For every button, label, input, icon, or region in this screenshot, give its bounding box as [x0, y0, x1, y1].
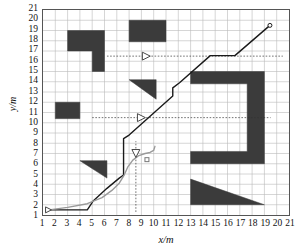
x-tick-label-13: 13	[186, 219, 196, 229]
y-axis-tick-labels: 123456789101112131415161718192021	[16, 9, 38, 216]
y-tick-label-10: 10	[29, 118, 39, 128]
y-tick-label-15: 15	[29, 66, 39, 76]
figure-root: 123456789101112131415161718192021 123456…	[0, 0, 304, 251]
x-tick-label-10: 10	[149, 219, 159, 229]
y-tick-label-6: 6	[33, 160, 38, 170]
obstacle-triangle-left	[80, 161, 107, 178]
obstacle-L-shape	[68, 31, 105, 72]
y-tick-label-13: 13	[29, 87, 39, 97]
x-axis-tick-labels: 123456789101112131415161718192021	[42, 219, 290, 233]
y-tick-label-2: 2	[33, 201, 38, 211]
y-tick-label-11: 11	[29, 108, 38, 118]
obstacle-triangle-mid	[129, 80, 156, 99]
x-tick-label-15: 15	[211, 219, 221, 229]
target-marker	[145, 158, 149, 162]
x-tick-label-5: 5	[89, 219, 94, 229]
x-tick-label-6: 6	[102, 219, 107, 229]
start-marker	[46, 207, 52, 213]
x-tick-label-21: 21	[285, 219, 295, 229]
x-tick-label-20: 20	[273, 219, 283, 229]
x-tick-label-17: 17	[236, 219, 246, 229]
y-tick-label-3: 3	[33, 191, 38, 201]
y-tick-label-17: 17	[29, 46, 39, 56]
x-tick-label-11: 11	[161, 219, 170, 229]
y-tick-label-7: 7	[33, 149, 38, 159]
plot-canvas	[43, 10, 289, 215]
x-tick-label-8: 8	[126, 219, 131, 229]
y-tick-label-19: 19	[29, 25, 39, 35]
x-tick-label-18: 18	[248, 219, 258, 229]
y-tick-label-8: 8	[33, 139, 38, 149]
y-tick-label-5: 5	[33, 170, 38, 180]
x-tick-label-2: 2	[52, 219, 57, 229]
x-tick-label-16: 16	[223, 219, 233, 229]
x-tick-label-14: 14	[198, 219, 208, 229]
obstacle-rect-left	[55, 102, 80, 118]
robot-marker-1	[142, 52, 150, 60]
x-tick-label-3: 3	[64, 219, 69, 229]
y-tick-label-9: 9	[33, 128, 38, 138]
y-tick-label-16: 16	[29, 56, 39, 66]
y-tick-label-18: 18	[29, 35, 39, 45]
x-tick-label-7: 7	[114, 219, 119, 229]
plot-area	[42, 9, 290, 216]
y-tick-label-1: 1	[33, 211, 38, 221]
series-actual-trajectory	[49, 146, 155, 210]
x-tick-label-12: 12	[174, 219, 184, 229]
x-tick-label-1: 1	[40, 219, 45, 229]
obstacle-rect-top	[129, 20, 166, 42]
y-tick-label-20: 20	[29, 15, 39, 25]
x-tick-label-4: 4	[77, 219, 82, 229]
y-tick-label-14: 14	[29, 77, 39, 87]
y-tick-label-21: 21	[29, 4, 39, 14]
y-tick-label-4: 4	[33, 180, 38, 190]
y-tick-label-12: 12	[29, 97, 39, 107]
x-tick-label-9: 9	[139, 219, 144, 229]
x-axis-title: x/m	[158, 234, 173, 245]
y-axis-title: y/m	[7, 97, 18, 111]
goal-marker	[268, 23, 272, 27]
x-tick-label-19: 19	[260, 219, 270, 229]
